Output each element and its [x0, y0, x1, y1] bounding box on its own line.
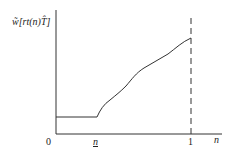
x-axis-label: n: [214, 134, 219, 145]
n-lower-tick-label: n: [93, 136, 98, 147]
one-tick-label: 1: [188, 136, 193, 147]
y-axis-label: w̃[rt(n)T̂]: [12, 16, 50, 27]
series-line: [56, 38, 191, 117]
origin-label: 0: [46, 136, 51, 147]
